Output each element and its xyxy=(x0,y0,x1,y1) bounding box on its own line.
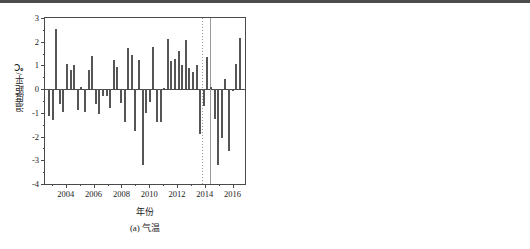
y-tick-label-temperature: -1 xyxy=(32,109,39,118)
y-tick-label-temperature: 3 xyxy=(35,14,39,23)
y-tick-temperature xyxy=(41,113,45,114)
bar xyxy=(91,56,93,89)
x-tick-label-temperature: 2004 xyxy=(57,190,74,199)
bar xyxy=(66,64,68,89)
figure-root: 温度距平/℃ -4-3-2-10123200420062008201020122… xyxy=(0,0,530,249)
bar xyxy=(170,61,172,89)
y-tick-temperature xyxy=(41,42,45,43)
x-tick-label-temperature: 2006 xyxy=(85,190,102,199)
x-tick-temperature xyxy=(94,184,95,188)
panel-caption-temperature: (a) 气温 xyxy=(130,221,160,234)
bar xyxy=(224,79,226,89)
y-tick-minor-temperature xyxy=(43,172,45,173)
bar xyxy=(80,87,82,89)
y-tick-label-temperature: 2 xyxy=(35,37,39,46)
plot-area-temperature xyxy=(45,18,245,184)
x-axis-title-temperature: 年份 xyxy=(136,205,154,218)
x-tick-minor-temperature xyxy=(191,184,192,186)
bar xyxy=(221,89,223,138)
bar xyxy=(102,89,104,96)
y-tick-minor-temperature xyxy=(43,125,45,126)
bar xyxy=(106,89,108,96)
bar xyxy=(210,87,212,89)
bar xyxy=(142,89,144,164)
bar xyxy=(149,89,151,102)
bar xyxy=(167,39,169,89)
bar xyxy=(214,89,216,119)
bar xyxy=(120,89,122,103)
bar xyxy=(145,89,147,113)
y-tick-label-temperature: 0 xyxy=(35,85,39,94)
x-tick-label-temperature: 2008 xyxy=(113,190,130,199)
panel-precipitation: 降水距平/mm -1 000-50005001 0001 50020042006… xyxy=(265,0,530,249)
y-tick-temperature xyxy=(41,184,45,185)
y-tick-minor-temperature xyxy=(43,101,45,102)
reference-line-temperature-1 xyxy=(210,18,211,184)
bar xyxy=(160,89,162,122)
bar xyxy=(196,65,198,89)
bar xyxy=(98,89,100,114)
bar xyxy=(52,89,54,120)
bar xyxy=(70,70,72,89)
y-tick-temperature xyxy=(41,18,45,19)
x-tick-label-temperature: 2010 xyxy=(141,190,158,199)
bar xyxy=(55,29,57,89)
y-tick-temperature xyxy=(41,89,45,90)
bar xyxy=(131,55,133,89)
bar xyxy=(217,89,219,165)
x-tick-label-temperature: 2012 xyxy=(168,190,185,199)
x-tick-label-temperature: 2014 xyxy=(196,190,213,199)
bar xyxy=(163,88,165,89)
x-tick-temperature xyxy=(149,184,150,188)
y-axis-title-temperature: 温度距平/℃ xyxy=(12,62,25,112)
bar xyxy=(174,59,176,89)
bar xyxy=(127,48,129,89)
x-tick-temperature xyxy=(177,184,178,188)
bar xyxy=(77,89,79,110)
bar xyxy=(239,38,241,89)
bar xyxy=(203,89,205,106)
panel-temperature: 温度距平/℃ -4-3-2-10123200420062008201020122… xyxy=(0,0,265,249)
y-tick-temperature xyxy=(41,137,45,138)
y-tick-minor-temperature xyxy=(43,77,45,78)
bar xyxy=(178,51,180,89)
plot-frame-temperature: -4-3-2-101232004200620082010201220142016 xyxy=(44,17,246,185)
x-tick-minor-temperature xyxy=(219,184,220,186)
y-tick-minor-temperature xyxy=(43,148,45,149)
x-tick-minor-temperature xyxy=(80,184,81,186)
bar xyxy=(95,89,97,104)
bar xyxy=(232,89,234,91)
x-tick-temperature xyxy=(233,184,234,188)
y-tick-minor-temperature xyxy=(43,30,45,31)
bar xyxy=(73,65,75,89)
x-tick-label-temperature: 2016 xyxy=(224,190,241,199)
y-tick-temperature xyxy=(41,65,45,66)
bar xyxy=(113,60,115,89)
bar xyxy=(192,72,194,89)
bar xyxy=(188,68,190,89)
bar xyxy=(185,40,187,89)
x-tick-temperature xyxy=(121,184,122,188)
x-tick-temperature xyxy=(66,184,67,188)
y-tick-label-temperature: -3 xyxy=(32,156,39,165)
bar xyxy=(84,89,86,112)
bar xyxy=(152,47,154,89)
y-tick-label-temperature: -4 xyxy=(32,180,39,189)
bar xyxy=(199,89,201,134)
x-tick-minor-temperature xyxy=(108,184,109,186)
bar xyxy=(228,89,230,151)
bar xyxy=(88,70,90,89)
bar xyxy=(181,65,183,89)
bar xyxy=(138,60,140,89)
x-tick-minor-temperature xyxy=(163,184,164,186)
y-tick-label-temperature: 1 xyxy=(35,61,39,70)
bar xyxy=(235,64,237,90)
bar xyxy=(156,89,158,122)
bar xyxy=(62,89,64,112)
y-tick-minor-temperature xyxy=(43,54,45,55)
bar xyxy=(134,89,136,131)
bar xyxy=(59,89,61,104)
y-tick-temperature xyxy=(41,160,45,161)
x-tick-temperature xyxy=(205,184,206,188)
bar xyxy=(124,89,126,122)
